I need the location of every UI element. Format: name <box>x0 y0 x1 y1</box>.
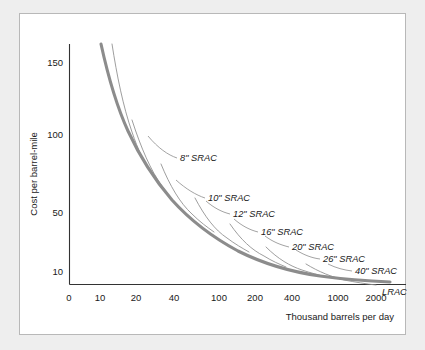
x-tick-label: 400 <box>284 292 300 303</box>
y-tick-label: 100 <box>47 129 63 140</box>
axes <box>70 44 407 285</box>
figure-card: 150 100 50 10 Cost per barrel-mile 0 10 … <box>19 13 406 335</box>
srac-curves <box>112 44 376 285</box>
leader-line-40in <box>328 264 352 271</box>
x-axis-ticks: 0 10 20 40 100 200 400 1000 2000 <box>66 292 386 303</box>
y-tick-label: 150 <box>47 57 63 68</box>
y-tick-label: 10 <box>52 266 63 277</box>
curve-label-26in-srac: 26" SRAC <box>322 254 365 264</box>
lrac-curve <box>101 44 390 282</box>
x-tick-label: 1000 <box>327 292 348 303</box>
x-tick-label: 100 <box>211 292 227 303</box>
leader-line-20in <box>265 236 289 247</box>
leader-line-8in <box>148 136 177 158</box>
y-tick-label: 50 <box>52 207 63 218</box>
x-tick-label: 0 <box>66 292 71 303</box>
x-tick-label: 200 <box>247 292 263 303</box>
x-tick-label: 40 <box>169 292 180 303</box>
y-axis-title: Cost per barrel-mile <box>28 132 39 215</box>
curve-label-16in-srac: 16" SRAC <box>261 227 303 237</box>
curve-annotations: 8" SRAC 10" SRAC 12" SRAC 16" SRAC 20" S… <box>180 153 407 297</box>
srac-curve-16in <box>195 198 249 252</box>
x-tick-label: 10 <box>95 292 106 303</box>
x-tick-label: 20 <box>131 292 142 303</box>
leader-line-16in <box>234 219 258 232</box>
curve-label-8in-srac: 8" SRAC <box>180 153 217 163</box>
srac-curve-10in <box>132 120 184 213</box>
y-axis-ticks: 150 100 50 10 <box>47 57 63 277</box>
curve-label-20in-srac: 20" SRAC <box>291 242 334 252</box>
curve-label-lrac: LRAC <box>382 287 407 297</box>
cost-curve-chart: 150 100 50 10 Cost per barrel-mile 0 10 … <box>20 14 407 336</box>
curve-label-10in-srac: 10" SRAC <box>208 193 250 203</box>
page-root: 150 100 50 10 Cost per barrel-mile 0 10 … <box>0 0 425 350</box>
curve-label-12in-srac: 12" SRAC <box>233 209 275 219</box>
leader-line-10in <box>176 180 205 198</box>
x-axis-title: Thousand barrels per day <box>286 311 395 322</box>
curve-label-40in-srac: 40" SRAC <box>355 266 397 276</box>
